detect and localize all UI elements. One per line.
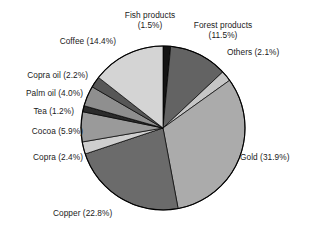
- slice-label-tea: Tea (1.2%): [0, 106, 74, 116]
- slice-label-forest-products: Forest products (11.5%): [180, 20, 266, 41]
- pie-slice-group: [81, 46, 245, 210]
- slice-label-gold: Gold (31.9%): [240, 152, 309, 162]
- slice-label-copra: Copra (2.4%): [0, 152, 83, 162]
- slice-label-palm-oil: Palm oil (4.0%): [0, 88, 83, 98]
- pie-chart-figure: Fish products (1.5%) Forest products (11…: [0, 0, 309, 238]
- slice-label-copra-oil: Copra oil (2.2%): [0, 70, 88, 80]
- slice-label-cocoa: Cocoa (5.9%): [0, 126, 83, 136]
- slice-label-coffee: Coffee (14.4%): [20, 36, 116, 46]
- slice-label-fish-products: Fish products (1.5%): [112, 10, 188, 31]
- slice-label-others: Others (2.1%): [227, 47, 307, 57]
- slice-label-copper: Copper (22.8%): [53, 208, 143, 218]
